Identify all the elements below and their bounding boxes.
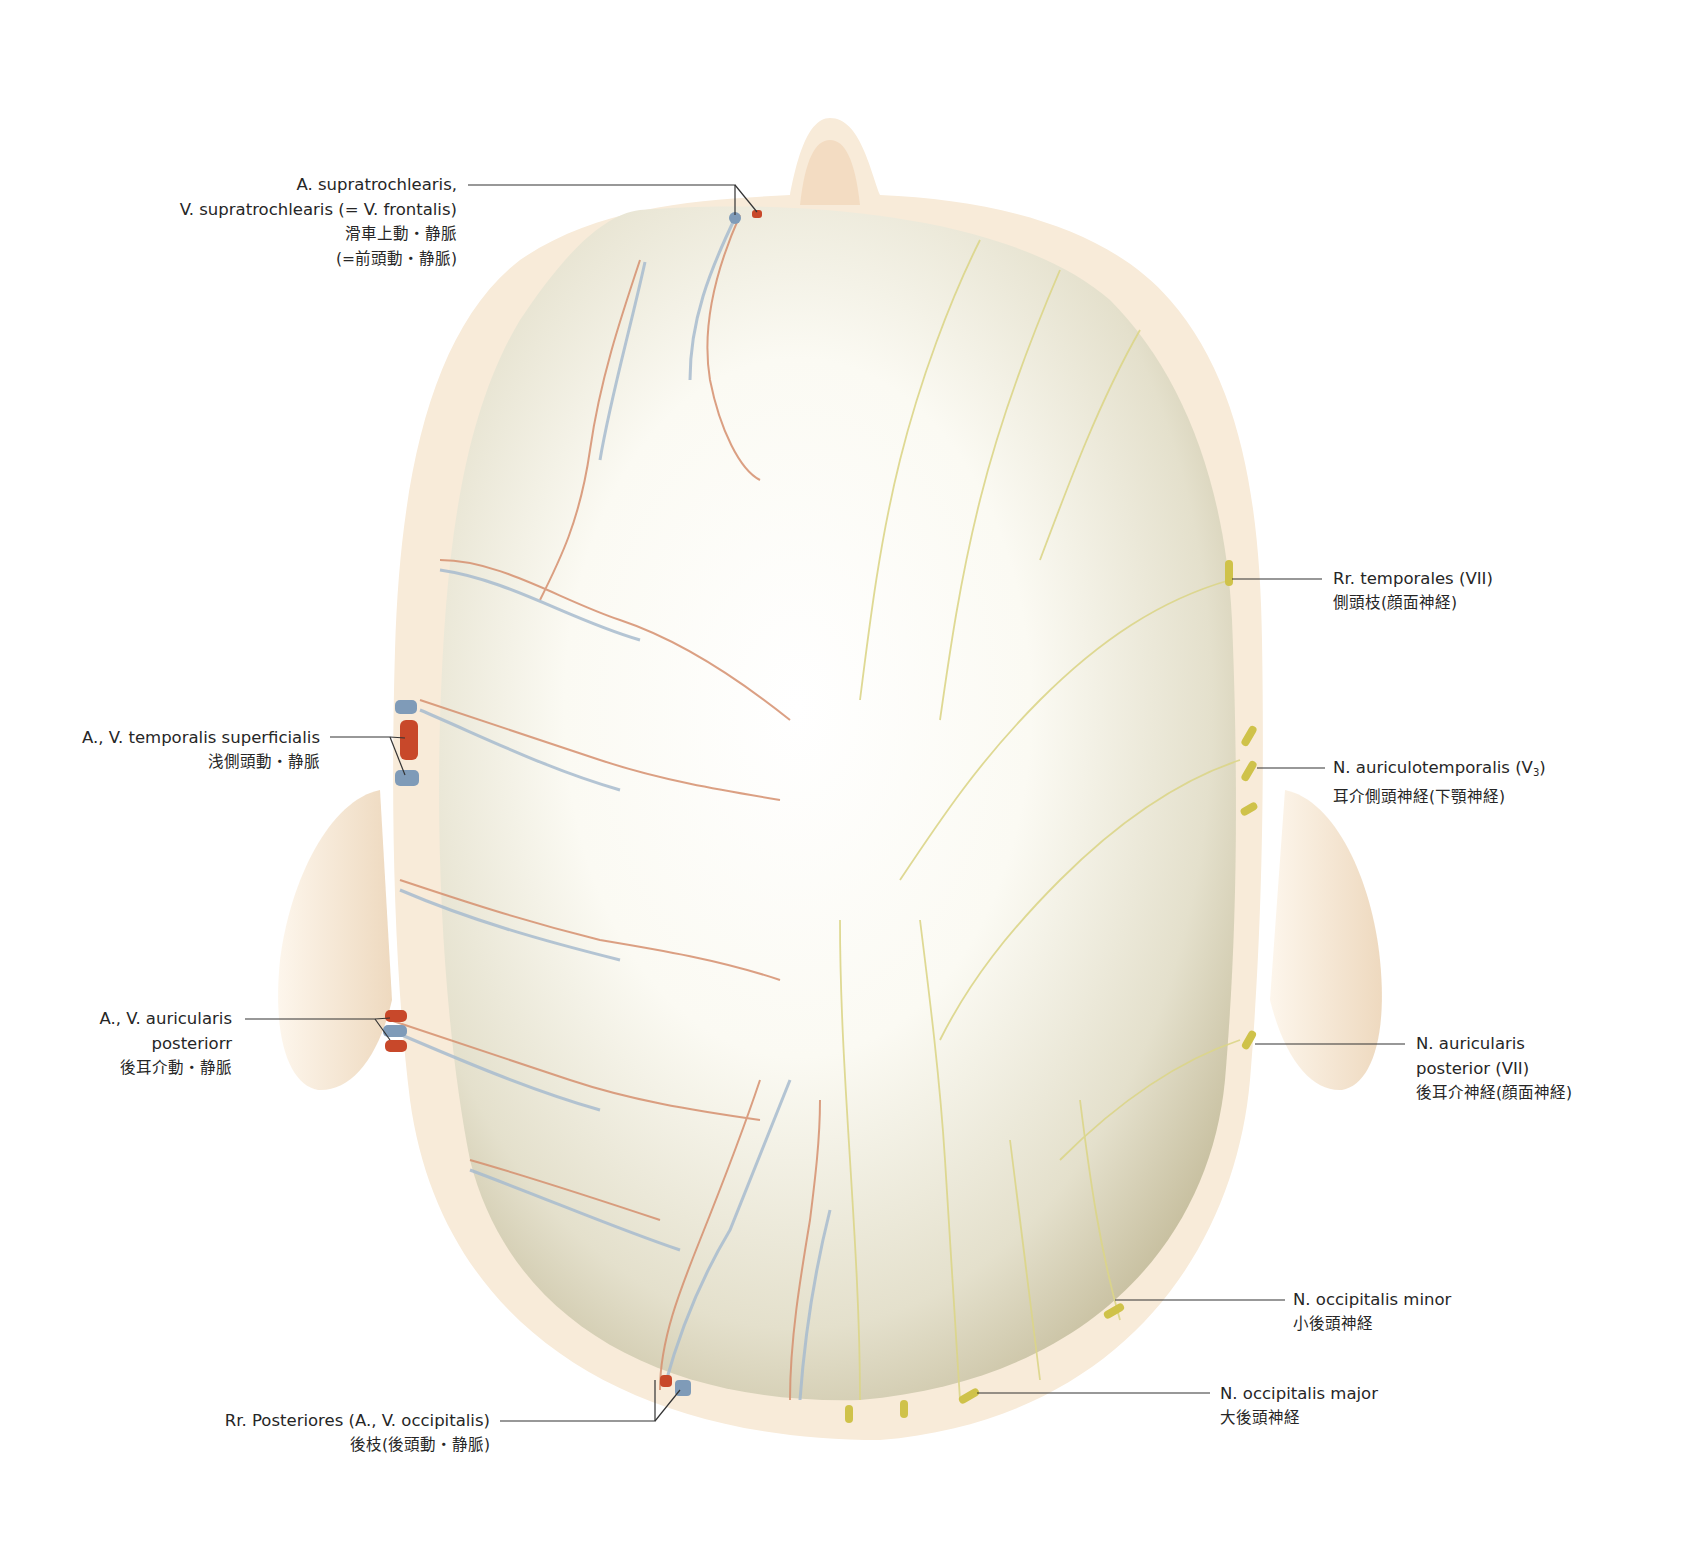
label-jp: (=前頭動・静脈) [180,247,457,272]
label-jp: 後枝(後頭動・静脈) [225,1433,490,1458]
label-jp: 小後頭神経 [1293,1312,1451,1337]
label-line: posterior (VII) [1416,1056,1572,1081]
label-rr-posteriores: Rr. Posteriores (A., V. occipitalis) 後枝(… [225,1408,490,1458]
label-line: N. occipitalis major [1220,1381,1378,1406]
label-supratrochlearis: A. supratrochlearis, V. supratrochlearis… [180,172,457,272]
label-jp: 後耳介神経(顔面神経) [1416,1081,1572,1106]
label-temporalis-superficialis: A., V. temporalis superficialis 浅側頭動・静脈 [82,725,320,775]
label-line: N. auriculotemporalis (V3) [1333,755,1546,785]
label-line: posteriorr [99,1031,232,1056]
label-auriculotemporalis: N. auriculotemporalis (V3) 耳介側頭神経(下顎神経) [1333,755,1546,810]
skull [439,206,1236,1400]
label-jp: 大後頭神経 [1220,1406,1378,1431]
label-auricularis-posterior-vessels: A., V. auricularis posteriorr 後耳介動・静脈 [99,1006,232,1081]
label-occipitalis-major: N. occipitalis major 大後頭神経 [1220,1381,1378,1431]
left-ear [278,790,392,1090]
label-jp: 滑車上動・静脈 [180,222,457,247]
label-line: A., V. temporalis superficialis [82,725,320,750]
label-line: V. supratrochlearis (= V. frontalis) [180,197,457,222]
label-line: A., V. auricularis [99,1006,232,1031]
label-jp: 耳介側頭神経(下顎神経) [1333,785,1546,810]
label-occipitalis-minor: N. occipitalis minor 小後頭神経 [1293,1287,1451,1337]
label-rr-temporales: Rr. temporales (VII) 側頭枝(顔面神経) [1333,566,1493,616]
label-jp: 後耳介動・静脈 [99,1056,232,1081]
label-line: N. occipitalis minor [1293,1287,1451,1312]
label-line: Rr. temporales (VII) [1333,566,1493,591]
label-jp: 側頭枝(顔面神経) [1333,591,1493,616]
right-ear [1270,790,1382,1090]
label-line: A. supratrochlearis, [180,172,457,197]
label-auricularis-posterior-nerve: N. auricularis posterior (VII) 後耳介神経(顔面神… [1416,1031,1572,1106]
label-line: N. auricularis [1416,1031,1572,1056]
label-line: Rr. Posteriores (A., V. occipitalis) [225,1408,490,1433]
label-jp: 浅側頭動・静脈 [82,750,320,775]
